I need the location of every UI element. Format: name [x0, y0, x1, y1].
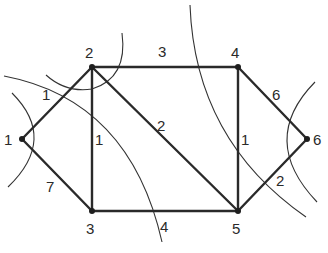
graph-edges [22, 67, 307, 211]
edge-weight-label-4-6: 6 [272, 86, 280, 103]
node-label-4: 4 [231, 44, 239, 61]
node-label-2: 2 [85, 44, 93, 61]
graph-diagram: 171321462123456 [0, 0, 328, 253]
node-label-3: 3 [86, 220, 94, 237]
cut-left-long [4, 76, 162, 242]
cut-right-long [190, 5, 306, 217]
edge-1-3 [22, 139, 92, 211]
node-5 [235, 208, 241, 214]
edge-weight-label-1-2: 1 [42, 86, 50, 103]
node-6 [304, 136, 310, 142]
edge-weight-label-4-5: 1 [241, 131, 249, 148]
graph-labels: 171321462123456 [4, 43, 321, 237]
node-3 [89, 208, 95, 214]
node-1 [19, 136, 25, 142]
node-2 [89, 64, 95, 70]
edge-1-2 [22, 67, 92, 139]
edge-weight-label-5-6: 2 [276, 172, 284, 189]
edge-weight-label-2-5: 2 [157, 117, 165, 134]
node-label-5: 5 [232, 220, 240, 237]
node-label-1: 1 [4, 131, 12, 148]
edge-weight-label-2-4: 3 [158, 43, 166, 60]
edge-weight-label-1-3: 7 [46, 178, 54, 195]
edge-4-6 [238, 67, 307, 139]
edge-2-5 [92, 67, 238, 211]
node-label-6: 6 [313, 131, 321, 148]
node-4 [235, 64, 241, 70]
cut-around-node-2 [46, 33, 123, 90]
edge-weight-label-3-5: 4 [160, 218, 168, 235]
edge-weight-label-2-3: 1 [95, 131, 103, 148]
